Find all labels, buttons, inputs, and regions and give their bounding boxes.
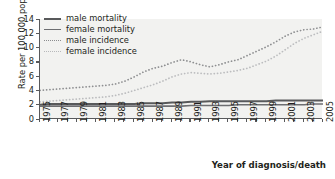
legend-item-female-incidence: female incidence xyxy=(44,45,137,56)
legend-swatch-line-icon xyxy=(44,23,61,34)
x-tick-mark xyxy=(95,119,96,122)
y-tick-label: 8 xyxy=(18,57,34,65)
x-tick-mark xyxy=(189,119,190,122)
x-axis-title: Year of diagnosis/death xyxy=(0,160,326,170)
x-tick-label: 2003 xyxy=(307,101,315,122)
x-tick-mark xyxy=(322,119,323,122)
x-tick-label: 1979 xyxy=(80,101,88,122)
y-tick-label: 10 xyxy=(18,43,34,51)
x-tick-label: 1985 xyxy=(137,101,145,122)
x-tick-mark xyxy=(284,119,285,122)
legend-item-male-mortality: male mortality xyxy=(44,12,137,23)
x-tick-mark xyxy=(171,119,172,122)
x-tick-mark xyxy=(152,119,153,122)
x-tick-label: 1983 xyxy=(118,101,126,122)
x-tick-label: 2001 xyxy=(288,101,296,122)
x-tick-mark xyxy=(265,119,266,122)
x-tick-mark xyxy=(303,119,304,122)
legend-swatch-line-icon xyxy=(44,12,61,23)
x-tick-label: 1981 xyxy=(99,101,107,122)
legend-swatch-dotted-icon xyxy=(44,45,61,56)
x-tick-mark xyxy=(227,119,228,122)
x-tick-label: 1975 xyxy=(43,101,51,122)
x-tick-mark xyxy=(133,119,134,122)
legend-item-male-incidence: male incidence xyxy=(44,34,137,45)
x-tick-label: 1997 xyxy=(250,101,258,122)
x-tick-label: 1991 xyxy=(194,101,202,122)
x-tick-label: 1987 xyxy=(156,101,164,122)
legend-label: male mortality xyxy=(66,13,127,23)
x-tick-label: 2005 xyxy=(326,101,334,122)
legend-label: male incidence xyxy=(66,35,129,45)
legend-swatch-dotted-icon xyxy=(44,34,61,45)
chart-legend: male mortality female mortality male inc… xyxy=(44,12,137,56)
x-tick-label: 1977 xyxy=(61,101,69,122)
y-tick-label: 6 xyxy=(18,72,34,80)
y-tick-label: 0 xyxy=(18,115,34,123)
x-tick-label: 1989 xyxy=(175,101,183,122)
y-tick-label: 4 xyxy=(18,86,34,94)
legend-label: female incidence xyxy=(66,46,137,56)
x-tick-label: 1999 xyxy=(269,101,277,122)
x-tick-mark xyxy=(208,119,209,122)
y-tick-label: 2 xyxy=(18,100,34,108)
legend-label: female mortality xyxy=(66,24,135,34)
y-tick-label: 14 xyxy=(18,15,34,23)
x-tick-mark xyxy=(76,119,77,122)
x-tick-label: 1993 xyxy=(212,101,220,122)
x-tick-label: 1995 xyxy=(231,101,239,122)
x-tick-mark xyxy=(57,119,58,122)
legend-item-female-mortality: female mortality xyxy=(44,23,137,34)
x-tick-mark xyxy=(114,119,115,122)
x-tick-mark xyxy=(246,119,247,122)
x-tick-mark xyxy=(39,119,40,122)
y-tick-label: 12 xyxy=(18,29,34,37)
